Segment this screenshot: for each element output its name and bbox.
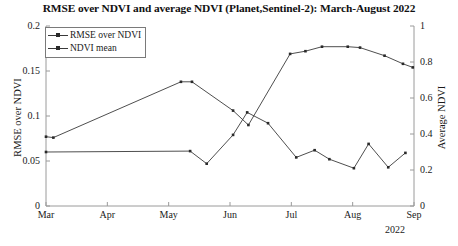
chart-figure: RMSE over NDVI and average NDVI (Planet,…	[0, 0, 458, 246]
right-axis-title: Average NDVI	[436, 58, 447, 178]
x-tick-label: Sep	[384, 209, 444, 220]
series-rmse-over-ndvi	[45, 111, 407, 169]
right-tick-label: 0.8	[420, 56, 458, 67]
x-tick-label: May	[139, 209, 199, 220]
x-tick-label: Aug	[323, 209, 383, 220]
legend-item-rmse[interactable]: RMSE over NDVI	[48, 29, 141, 42]
series-ndvi-mean	[45, 45, 414, 139]
right-tick-label: 0.4	[420, 128, 458, 139]
right-tick-label: 1	[420, 20, 458, 31]
x-tick-label: Apr	[77, 209, 137, 220]
x-axis-ticks	[46, 202, 414, 206]
right-tick-label: 0.2	[420, 164, 458, 175]
legend-line-marker-icon	[48, 31, 68, 41]
left-tick-label: 0.2	[0, 20, 40, 31]
left-tick-label: 0.15	[0, 65, 40, 76]
x-tick-label: Jul	[261, 209, 321, 220]
x-tick-label: Jun	[200, 209, 260, 220]
legend-label-rmse: RMSE over NDVI	[70, 30, 141, 41]
legend-item-ndvi-mean[interactable]: NDVI mean	[48, 42, 141, 55]
chart-legend[interactable]: RMSE over NDVI NDVI mean	[45, 27, 146, 58]
year-annotation: 2022	[365, 224, 425, 235]
legend-line-marker-icon	[48, 44, 68, 54]
legend-label-ndvi-mean: NDVI mean	[70, 43, 117, 54]
left-tick-label: 0.1	[0, 110, 40, 121]
right-tick-label: 0.6	[420, 92, 458, 103]
right-axis-ticks	[410, 26, 414, 206]
x-tick-label: Mar	[16, 209, 76, 220]
left-tick-label: 0.05	[0, 155, 40, 166]
